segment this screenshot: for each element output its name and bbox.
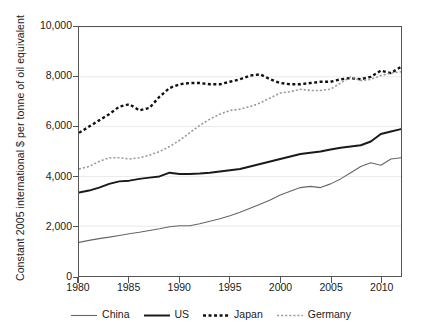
legend-item-germany[interactable]: Germany: [277, 309, 351, 320]
y-tick-label: 2,000: [26, 220, 72, 232]
legend-label: Germany: [308, 309, 351, 320]
legend-swatch-china: [71, 310, 97, 319]
legend-label: Japan: [234, 309, 263, 320]
y-axis-title: Constant 2005 international $ per tonne …: [14, 3, 36, 293]
x-tick-mark: [381, 277, 382, 283]
chart-legend: ChinaUSJapanGermany: [0, 303, 422, 325]
x-tick-mark: [179, 277, 180, 283]
x-tick-mark: [128, 277, 129, 283]
legend-swatch-japan: [203, 310, 229, 319]
legend-item-us[interactable]: US: [144, 309, 190, 320]
plot-area: [78, 26, 402, 277]
y-tick-label: 8,000: [26, 69, 72, 81]
energy-productivity-chart: Constant 2005 international $ per tonne …: [0, 0, 422, 336]
legend-label: US: [175, 309, 190, 320]
x-tick-mark: [331, 277, 332, 283]
plot-lines: [79, 27, 401, 276]
series-line-germany: [79, 72, 401, 169]
legend-swatch-us: [144, 310, 170, 319]
legend-item-japan[interactable]: Japan: [203, 309, 263, 320]
y-tick-label: 4,000: [26, 170, 72, 182]
series-line-china: [79, 158, 401, 243]
y-tick-label: 10,000: [26, 19, 72, 31]
legend-label: China: [102, 309, 129, 320]
y-tick-label: 6,000: [26, 119, 72, 131]
series-line-us: [79, 129, 401, 192]
x-tick-mark: [77, 277, 78, 283]
x-tick-mark: [229, 277, 230, 283]
legend-item-china[interactable]: China: [71, 309, 129, 320]
legend-swatch-germany: [277, 310, 303, 319]
x-tick-mark: [280, 277, 281, 283]
